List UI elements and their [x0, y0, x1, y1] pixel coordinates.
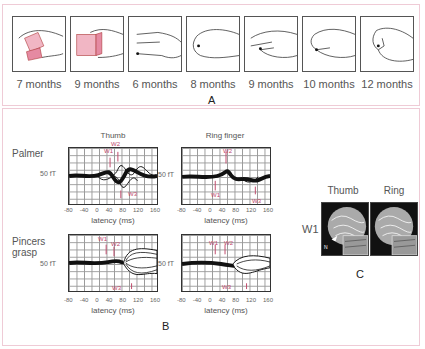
tick: 40 — [106, 207, 113, 213]
marker-w2: W2 — [224, 240, 233, 246]
marker-w3: W3 — [252, 198, 261, 204]
tick: 160 — [263, 207, 273, 213]
tick: 40 — [106, 297, 113, 303]
hand-illustration-radial-cube — [70, 16, 124, 72]
tick: 120 — [246, 297, 256, 303]
tick: 0 — [208, 207, 211, 213]
tick: -80 — [64, 207, 73, 213]
scale-label: 50 fT — [158, 171, 174, 178]
tick: 160 — [263, 297, 273, 303]
row-label-palmer: Palmer — [12, 148, 44, 159]
tick: -40 — [80, 207, 89, 213]
tick: 0 — [208, 297, 211, 303]
tick: 120 — [246, 207, 256, 213]
x-axis-ticks: -80-4004080120160 — [64, 297, 160, 303]
marker-w1: W1 — [104, 148, 113, 154]
meg-plot-palmer-thumb — [68, 147, 158, 205]
column-title-thumb: Thumb — [68, 131, 158, 140]
hand-illustration-raking — [186, 16, 240, 72]
marker-w1: W1 — [209, 240, 218, 246]
tick: 160 — [150, 207, 160, 213]
tick: 160 — [150, 297, 160, 303]
panel-a-letter: A — [208, 94, 215, 106]
tick: -80 — [64, 297, 73, 303]
tick: -40 — [80, 297, 89, 303]
tick: 40 — [219, 297, 226, 303]
marker-w3: W3 — [112, 285, 121, 291]
x-axis-label: latency (ms) — [181, 306, 271, 315]
panel-c-letter: C — [356, 268, 364, 280]
hand-illustration-open-fingers — [128, 16, 182, 72]
marker-w3: W3 — [128, 191, 137, 197]
panel-b-letter: B — [162, 320, 169, 332]
age-label: 10 months — [298, 78, 360, 90]
tick: 80 — [232, 207, 239, 213]
age-label: 8 months — [182, 78, 244, 90]
tick: 40 — [219, 207, 226, 213]
column-title-ring-scan: Ring — [369, 185, 419, 196]
scale-label: 50 fT — [40, 260, 56, 267]
marker-w2: W2 — [223, 148, 232, 154]
tick: -80 — [177, 297, 186, 303]
hand-illustration-palmar-cube — [12, 16, 66, 72]
tick: 80 — [119, 297, 126, 303]
inset-label-n: N — [324, 244, 328, 250]
marker-w2: W2 — [111, 141, 120, 147]
brain-scan-ring — [370, 202, 418, 256]
age-label: 6 months — [124, 78, 186, 90]
marker-w2: W2 — [111, 241, 120, 247]
tick: 80 — [232, 297, 239, 303]
age-label: 12 months — [356, 78, 418, 90]
tick: 80 — [119, 207, 126, 213]
hand-illustration-pincer — [302, 16, 356, 72]
marker-w1: W1 — [211, 192, 220, 198]
meg-plot-palmer-ring-finger — [181, 147, 271, 205]
tick: 0 — [95, 297, 98, 303]
scale-label: 50 fT — [40, 170, 56, 177]
brain-scan-thumb — [321, 202, 369, 256]
tick: -40 — [193, 297, 202, 303]
column-title-thumb-scan: Thumb — [318, 185, 368, 196]
tick: 120 — [133, 207, 143, 213]
x-axis-ticks: -80-4004080120160 — [64, 207, 160, 213]
age-label: 9 months — [66, 78, 128, 90]
row-label-pincers-grasp: Pincers grasp — [12, 236, 52, 258]
tick: 120 — [133, 297, 143, 303]
row-label-w1: W1 — [302, 224, 319, 235]
x-axis-label: latency (ms) — [181, 216, 271, 225]
x-axis-label: latency (ms) — [68, 216, 158, 225]
x-axis-label: latency (ms) — [68, 306, 158, 315]
tick: 0 — [95, 207, 98, 213]
hand-illustration-inferior-pincer — [244, 16, 298, 72]
age-label: 7 months — [8, 78, 70, 90]
tick: -80 — [177, 207, 186, 213]
hand-illustration-superior-pincer — [360, 16, 414, 72]
column-title-ring-finger: Ring finger — [180, 131, 270, 140]
age-label: 9 months — [240, 78, 302, 90]
tick: -40 — [193, 207, 202, 213]
marker-w3: W3 — [222, 284, 231, 290]
marker-w1: W1 — [98, 236, 107, 242]
x-axis-ticks: -80-4004080120160 — [177, 297, 273, 303]
x-axis-ticks: -80-4004080120160 — [177, 207, 273, 213]
scale-label: 50 fT — [158, 260, 174, 267]
